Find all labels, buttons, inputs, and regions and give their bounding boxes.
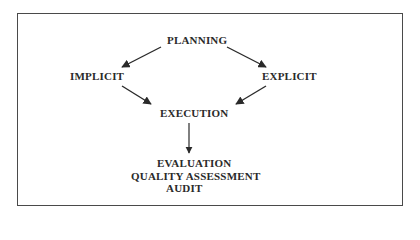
outcome-quality-assessment: QUALITY ASSESSMENT <box>131 170 260 183</box>
node-implicit: IMPLICIT <box>70 70 124 82</box>
node-execution: EXECUTION <box>160 107 228 119</box>
node-explicit: EXPLICIT <box>262 70 317 82</box>
node-outcome: EVALUATION QUALITY ASSESSMENT AUDIT <box>131 157 260 195</box>
outcome-evaluation: EVALUATION <box>131 157 260 170</box>
outcome-audit: AUDIT <box>131 182 260 195</box>
node-planning: PLANNING <box>167 34 227 46</box>
